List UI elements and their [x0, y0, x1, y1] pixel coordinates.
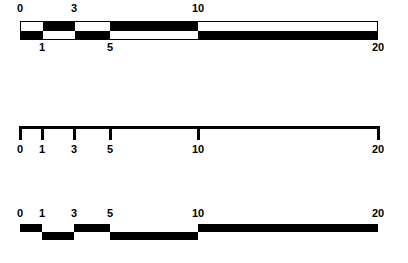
band-row-bottom: [21, 31, 377, 40]
band-row-top: [21, 22, 377, 31]
axis-label-20: 20: [372, 144, 384, 155]
scale-diagram-figure: 0310 1520 01351020 01351020: [0, 0, 408, 263]
axis-tick-10: [197, 126, 200, 140]
staircase-label-0: 0: [17, 208, 23, 219]
staircase-label-10: 10: [192, 208, 204, 219]
band-segment-top-0-1: [21, 22, 43, 31]
axis-tick-0: [19, 126, 22, 140]
band-segment-top-10-20: [198, 22, 377, 31]
staircase-label-5: 5: [107, 208, 113, 219]
band-segment-top-3-5: [75, 22, 111, 31]
staircase-bar-0-1: [20, 224, 42, 232]
band-label-10: 10: [192, 3, 204, 14]
band-frame: [20, 21, 378, 40]
axis-label-5: 5: [107, 144, 113, 155]
band-segment-bottom-5-10: [110, 31, 198, 40]
band-segment-top-1-3: [43, 22, 75, 31]
tick-axis-panel: 01351020: [0, 110, 408, 160]
axis-label-10: 10: [192, 144, 204, 155]
axis-label-1: 1: [39, 144, 45, 155]
axis-tick-3: [73, 126, 76, 140]
band-label-3: 3: [71, 3, 77, 14]
axis-tick-1: [41, 126, 44, 140]
axis-label-3: 3: [71, 144, 77, 155]
staircase-label-3: 3: [71, 208, 77, 219]
axis-label-0: 0: [17, 144, 23, 155]
staircase-bar-3-5: [74, 224, 110, 232]
band-segment-bottom-3-5: [75, 31, 111, 40]
band-segment-top-5-10: [110, 22, 198, 31]
alternating-band-panel: 0310 1520: [0, 0, 408, 58]
band-label-20: 20: [372, 42, 384, 53]
staircase-label-1: 1: [39, 208, 45, 219]
band-segment-bottom-10-20: [198, 31, 377, 40]
staircase-bar-10-20: [198, 224, 378, 232]
band-segment-bottom-0-1: [21, 31, 43, 40]
band-segment-bottom-1-3: [43, 31, 75, 40]
axis-tick-5: [109, 126, 112, 140]
staircase-bar-1-3: [42, 232, 74, 240]
staircase-label-20: 20: [372, 208, 384, 219]
staircase-bar-5-10: [110, 232, 198, 240]
band-label-1: 1: [39, 42, 45, 53]
staircase-panel: 01351020: [0, 200, 408, 263]
axis-tick-20: [377, 126, 380, 140]
band-label-0: 0: [17, 3, 23, 14]
band-label-5: 5: [107, 42, 113, 53]
